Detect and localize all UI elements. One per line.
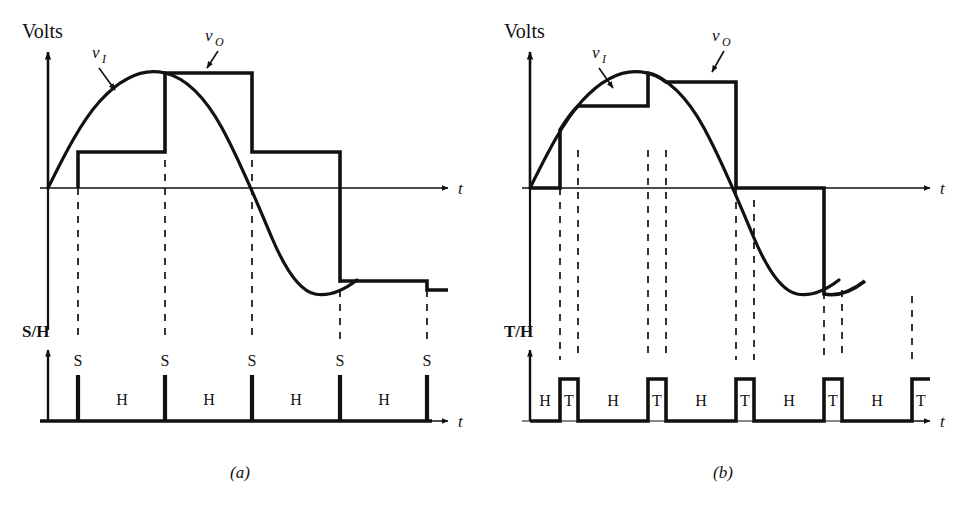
panel-a-output-label: v — [205, 26, 213, 45]
panel-b-marker-5: H — [695, 392, 707, 409]
panel-b-output-sublabel: O — [722, 35, 731, 49]
panel-b-marker-2: T — [564, 392, 574, 409]
sample-hold-track-hold-figure: Volts t v I v O — [0, 0, 967, 509]
panel-b-marker-6: T — [740, 392, 750, 409]
panel-b-marker-4: T — [652, 392, 662, 409]
panel-b-caption: (b) — [713, 463, 733, 482]
panel-b-y-axis-label: Volts — [504, 20, 545, 42]
panel-b-marker-9: H — [871, 392, 883, 409]
figure-background — [0, 0, 967, 509]
panel-a-hold-marker-3: H — [290, 391, 302, 408]
panel-a-hold-marker-2: H — [203, 391, 215, 408]
panel-a-caption: (a) — [230, 463, 250, 482]
panel-b-output-label: v — [712, 26, 720, 45]
panel-b-marker-3: H — [607, 392, 619, 409]
panel-a-sample-marker-3: S — [248, 352, 257, 369]
panel-b-marker-8: T — [828, 392, 838, 409]
panel-a-sample-marker-2: S — [161, 352, 170, 369]
panel-a-sample-marker-1: S — [74, 352, 83, 369]
panel-a-hold-marker-1: H — [116, 391, 128, 408]
panel-a-control-label: S/H — [22, 322, 49, 341]
panel-b-control-label: T/H — [504, 322, 533, 341]
panel-a-sample-marker-5: S — [423, 352, 432, 369]
panel-b-marker-1: H — [539, 392, 551, 409]
panel-b-input-label: v — [592, 43, 600, 62]
panel-a-input-label: v — [92, 43, 100, 62]
panel-a-output-sublabel: O — [215, 35, 224, 49]
panel-a-y-axis-label: Volts — [22, 20, 63, 42]
panel-b-marker-7: H — [783, 392, 795, 409]
panel-a-sample-marker-4: S — [336, 352, 345, 369]
panel-b-marker-10: T — [916, 392, 926, 409]
panel-a-hold-marker-4: H — [378, 391, 390, 408]
